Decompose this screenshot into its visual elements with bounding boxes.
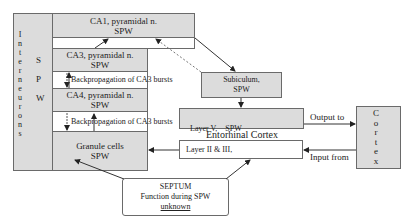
arrow-septum-to-granule: [75, 160, 124, 179]
arrow-ca3-to-ca1: [95, 39, 108, 48]
arrow-ca1-to-subiculum: [195, 38, 235, 71]
arrow-subiculum-to-ca1-dashed: [156, 39, 201, 72]
arrow-septum-to-layer-ii-iii: [226, 160, 250, 179]
connection-arrows: [0, 0, 415, 221]
